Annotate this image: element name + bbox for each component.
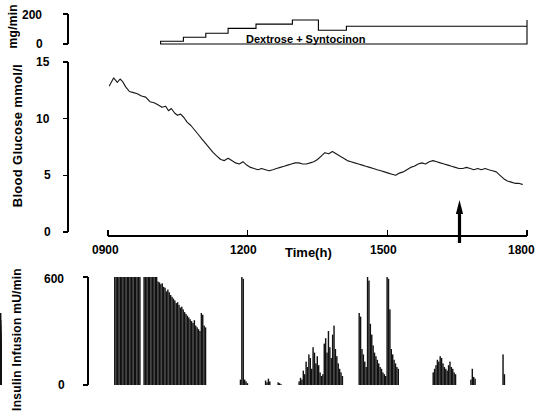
glucose-y-axis bbox=[63, 62, 68, 232]
insulin-y-axis bbox=[83, 277, 88, 385]
infusion-rate-y-axis bbox=[63, 14, 68, 44]
insulin-infusion-bars bbox=[0, 277, 505, 385]
blood-glucose-trace bbox=[109, 78, 522, 184]
dextrose-syntocinon-step-trace bbox=[161, 20, 527, 44]
time-x-axis bbox=[108, 230, 527, 236]
